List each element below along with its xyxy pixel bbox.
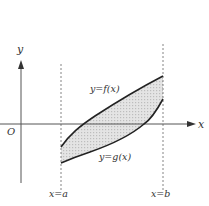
curve-f-label: y=f(x)	[89, 83, 120, 94]
bound-a-label: x=a	[49, 188, 68, 199]
y-axis-label: y	[16, 43, 24, 56]
area-between-curves-diagram: y x O y=f(x) y=g(x) x=a x=b	[0, 0, 209, 206]
x-axis-arrow-icon	[187, 121, 196, 127]
y-axis-arrow-icon	[18, 60, 24, 69]
x-axis-label: x	[198, 118, 205, 131]
curve-g-label: y=g(x)	[98, 151, 131, 162]
bound-b-label: x=b	[151, 188, 170, 199]
origin-label: O	[7, 126, 15, 137]
